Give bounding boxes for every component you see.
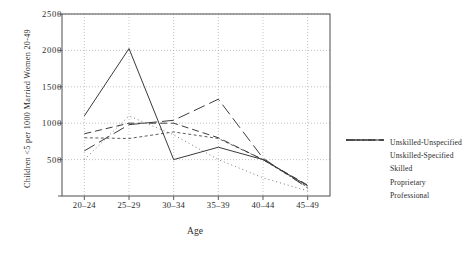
chart-container: Children <5 per 1000 Married Women 20-49…	[0, 0, 475, 255]
legend-label: Professional	[390, 189, 429, 202]
legend-item[interactable]: Skilled	[345, 162, 462, 175]
plot-area	[0, 0, 475, 255]
series-line-professional	[84, 49, 307, 186]
legend-swatch-icon	[345, 178, 385, 186]
legend-label: Proprietary	[390, 176, 426, 189]
legend-label: Skilled	[390, 162, 413, 175]
legend-item[interactable]: Proprietary	[345, 176, 462, 189]
legend-item[interactable]: Professional	[345, 189, 462, 202]
legend-swatch-icon	[345, 152, 385, 160]
legend-swatch-icon	[345, 165, 385, 173]
legend-label: Unskilled-Unspecified	[390, 136, 462, 149]
plot-frame	[62, 14, 330, 196]
series-line-proprietary	[84, 99, 307, 188]
legend-label: Unskilled-Specified	[390, 149, 454, 162]
data-series-group	[84, 49, 307, 191]
gridlines	[62, 14, 330, 196]
legend-swatch-icon	[345, 191, 385, 199]
series-line-skilled	[84, 123, 307, 185]
legend-item[interactable]: Unskilled-Specified	[345, 149, 462, 162]
tick-marks	[58, 14, 308, 200]
legend: Unskilled-UnspecifiedUnskilled-Specified…	[345, 136, 462, 202]
series-line-unskilled-specified	[84, 132, 307, 187]
